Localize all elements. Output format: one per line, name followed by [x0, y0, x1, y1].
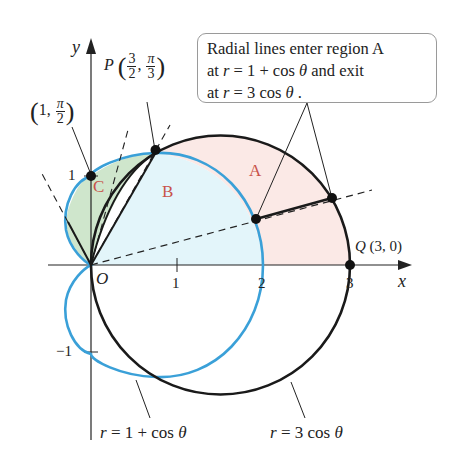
- callout-line-2: at r = 1 + cos θ and exit: [207, 60, 427, 82]
- y-tick-label-neg1: −1: [56, 344, 72, 359]
- region-b-label: B: [162, 183, 173, 200]
- leader-circle: [291, 382, 305, 418]
- point-q-name: Q: [355, 238, 366, 254]
- x-axis-label: x: [398, 272, 406, 290]
- curve-eq: = 3 cos: [277, 423, 335, 442]
- circle-label: r = 3 cos θ: [270, 424, 343, 441]
- origin-label: O: [96, 270, 108, 287]
- frac-den: 2: [56, 112, 65, 126]
- leader-top-point: [72, 127, 90, 172]
- cardioid-label: r = 1 + cos θ: [100, 424, 187, 441]
- y-axis-arrow-icon: [86, 38, 96, 54]
- callout-box: Radial lines enter region A at r = 1 + c…: [197, 33, 437, 103]
- x-tick-label-3: 3: [346, 276, 354, 291]
- frac-num: π: [146, 52, 155, 67]
- y-tick-label-1: 1: [68, 168, 76, 183]
- point-p-r: 32: [127, 52, 136, 81]
- callout-text: = 1 + cos: [229, 61, 298, 80]
- curve-var-theta: θ: [178, 423, 186, 442]
- point-p-label: P (32, π3): [104, 52, 165, 81]
- curve-var-r: r: [100, 423, 107, 442]
- frac-den: 2: [127, 67, 136, 81]
- curve-var-theta: θ: [334, 423, 342, 442]
- curve-eq: = 1 + cos: [107, 423, 179, 442]
- top-point-r: 1: [39, 101, 47, 118]
- point-q-coords: (3, 0): [370, 238, 403, 254]
- region-a-label: A: [249, 162, 261, 179]
- x-tick-label-1: 1: [172, 276, 180, 291]
- callout-text: and exit: [307, 61, 364, 80]
- callout-var-theta: θ: [299, 61, 307, 80]
- point-q: [345, 260, 355, 270]
- frac-num: π: [56, 97, 65, 112]
- top-point-theta: π2: [56, 97, 65, 126]
- callout-text: .: [294, 83, 302, 102]
- point-p: [151, 145, 161, 155]
- x-axis-arrow-icon: [398, 260, 412, 270]
- leader-p: [147, 102, 155, 150]
- frac-den: 3: [146, 67, 155, 81]
- callout-text: at: [207, 61, 223, 80]
- callout-line-1: Radial lines enter region A: [207, 38, 427, 60]
- point-exit: [327, 193, 337, 203]
- x-tick-label-2: 2: [258, 276, 266, 291]
- callout-text: at: [207, 83, 223, 102]
- point-p-name: P: [104, 56, 114, 73]
- top-point-label: (1, π2): [30, 97, 74, 126]
- callout-var-theta: θ: [286, 83, 294, 102]
- y-axis-label: y: [72, 38, 80, 56]
- point-enter: [251, 214, 261, 224]
- leader-cardioid: [136, 380, 150, 418]
- callout-text: = 3 cos: [229, 83, 285, 102]
- point-p-theta: π3: [146, 52, 155, 81]
- point-q-label: Q (3, 0): [355, 239, 402, 254]
- callout-line-3: at r = 3 cos θ .: [207, 82, 427, 104]
- region-c-label: C: [93, 178, 104, 195]
- curve-var-r: r: [270, 423, 277, 442]
- frac-num: 3: [127, 52, 136, 67]
